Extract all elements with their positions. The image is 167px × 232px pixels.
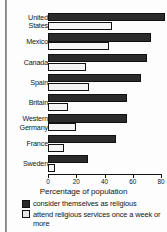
legend-swatch-religious-icon [22, 200, 30, 208]
bar-group [48, 93, 167, 113]
chart-row: Canada [0, 53, 167, 73]
bar-attendance [48, 22, 112, 30]
bar-religious [48, 33, 151, 41]
bar-religious [48, 155, 88, 163]
chart-row: Western Germany [0, 113, 167, 133]
bar-religious [48, 74, 141, 82]
bar-group [48, 113, 167, 133]
bar-group [48, 12, 167, 32]
chart-legend: consider themselves as religious attend … [0, 199, 167, 230]
bar-group [48, 32, 167, 52]
x-tick-label: 80 [157, 178, 164, 185]
chart-row: Mexico [0, 32, 167, 52]
chart-row: Sweden [0, 154, 167, 174]
x-axis-title: Percentage of population [0, 187, 167, 196]
chart-row: Spain [0, 73, 167, 93]
bar-group [48, 53, 167, 73]
legend-item: attend religious services once a week or… [0, 210, 167, 229]
bar-attendance [48, 42, 109, 50]
chart-row: France [0, 134, 167, 154]
bar-group [48, 154, 167, 174]
x-tick-label: 40 [101, 178, 108, 185]
x-tick-label: 20 [73, 178, 80, 185]
category-label: Sweden [2, 160, 48, 168]
bar-religious [48, 135, 116, 143]
category-label: Canada [2, 59, 48, 67]
legend-item: consider themselves as religious [0, 199, 167, 208]
bar-attendance [48, 144, 64, 152]
bar-religious [48, 13, 165, 21]
chart-row: Britain [0, 93, 167, 113]
category-label: France [2, 140, 48, 148]
bar-group [48, 73, 167, 93]
bar-religious [48, 94, 127, 102]
category-label: Britain [2, 99, 48, 107]
category-label: Spain [2, 79, 48, 87]
x-tick-label: 60 [129, 178, 136, 185]
bar-attendance [48, 103, 68, 111]
bar-attendance [48, 164, 55, 172]
bar-attendance [48, 63, 86, 71]
legend-label: consider themselves as religious [33, 199, 137, 208]
plot-area: United States Mexico Canada [0, 12, 167, 180]
bar-rows: United States Mexico Canada [0, 12, 167, 174]
bar-religious [48, 114, 127, 122]
bar-group [48, 134, 167, 154]
category-label: Western Germany [2, 115, 48, 131]
bar-attendance [48, 83, 89, 91]
category-label: Mexico [2, 38, 48, 46]
category-label: United States [2, 14, 48, 30]
bar-religious [48, 54, 147, 62]
x-tick-label: 0 [46, 178, 50, 185]
chart-row: United States [0, 12, 167, 32]
legend-label: attend religious services once a week or… [33, 210, 161, 229]
religion-bar-chart: United States Mexico Canada [0, 0, 167, 232]
bar-attendance [48, 123, 76, 131]
legend-swatch-attendance-icon [22, 210, 30, 218]
